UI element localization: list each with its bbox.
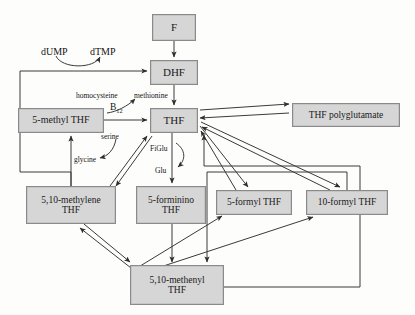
node-5-formyl-thf[interactable]: 5-formyl THF: [216, 190, 292, 215]
label-dtmp: dTMP: [90, 46, 116, 57]
edge-formyl5-thf: [201, 131, 236, 190]
edge-thf-polyglutamate-forward: [200, 104, 289, 110]
node-10-formyl-thf[interactable]: 10-formyl THF: [306, 190, 388, 215]
label-figlu: FiGlu: [150, 144, 168, 153]
node-510-methenyl-thf-line1: 5,10-methenyl: [147, 275, 206, 285]
label-dump: dUMP: [41, 46, 68, 57]
node-5-forminino-thf[interactable]: 5-forminino THF: [136, 186, 206, 224]
pathway-diagram: F DHF THF THF polyglutamate 5-methyl THF…: [0, 0, 415, 315]
node-5-forminino-thf-line2: THF: [160, 205, 182, 215]
node-5-methyl-thf[interactable]: 5-methyl THF: [18, 108, 104, 133]
edge-methylene-methenyl: [84, 224, 130, 262]
label-homocysteine: homocysteine: [76, 91, 118, 100]
node-510-methenyl-thf[interactable]: 5,10-methenyl THF: [130, 265, 224, 305]
edge-methenyl-formyl5: [132, 216, 222, 271]
edge-figlu-glu-arc: [176, 143, 184, 167]
node-5-formyl-thf-label: 5-formyl THF: [225, 197, 283, 207]
edge-formyl10-methenyl: [207, 172, 347, 262]
node-thf-polyglutamate-label: THF polyglutamate: [307, 110, 386, 120]
edge-dump-dtmp-arc: [56, 56, 100, 66]
label-methionine: methionine: [134, 91, 168, 100]
edge-polyglutamate-thf-reverse: [200, 113, 289, 118]
node-5-forminino-thf-line1: 5-forminino: [146, 195, 196, 205]
node-f[interactable]: F: [152, 14, 196, 41]
label-glycine: glycine: [74, 155, 96, 164]
node-510-methylene-thf-line2: THF: [60, 205, 82, 215]
node-510-methylene-thf[interactable]: 5,10-methylene THF: [26, 186, 116, 224]
edge-thf-methylene: [116, 136, 152, 186]
node-10-formyl-thf-label: 10-formyl THF: [316, 197, 379, 207]
label-glu: Glu: [155, 166, 166, 175]
node-thf[interactable]: THF: [150, 108, 198, 133]
node-thf-polyglutamate[interactable]: THF polyglutamate: [292, 103, 400, 127]
node-510-methylene-thf-line1: 5,10-methylene: [39, 195, 102, 205]
node-dhf-label: DHF: [161, 67, 187, 79]
edge-methenyl-methylene: [80, 228, 131, 268]
node-f-label: F: [169, 22, 179, 34]
label-b12: B12: [110, 102, 123, 114]
node-thf-label: THF: [162, 115, 187, 127]
edge-methylene-thf: [110, 136, 147, 186]
node-510-methenyl-thf-line2: THF: [166, 285, 188, 295]
edge-serine-glycine-arc: [100, 139, 116, 158]
edge-formyl10-thf: [202, 127, 330, 190]
node-dhf[interactable]: DHF: [150, 60, 198, 85]
node-5-methyl-thf-label: 5-methyl THF: [30, 115, 91, 126]
label-b12-subscript: 12: [116, 107, 122, 114]
label-serine: serine: [101, 132, 119, 141]
